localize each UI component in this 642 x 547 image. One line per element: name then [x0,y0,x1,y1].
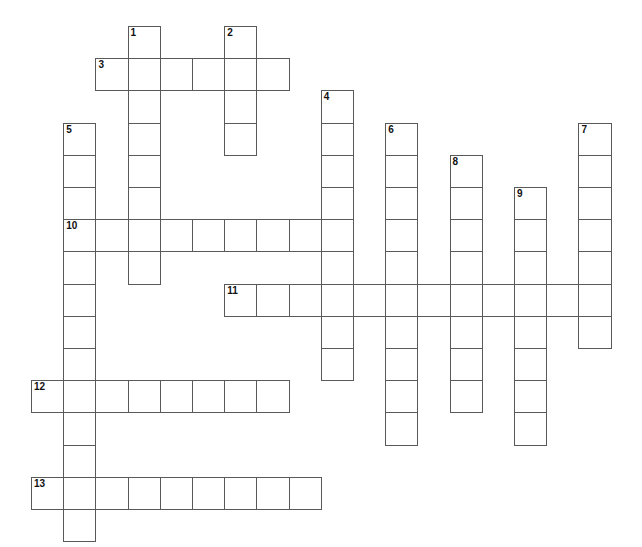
crossword-cell[interactable] [385,284,418,317]
crossword-cell-numbered[interactable]: 12 [31,380,64,413]
crossword-cell[interactable] [578,187,611,220]
crossword-cell[interactable] [482,284,515,317]
crossword-cell[interactable] [417,284,450,317]
crossword-cell-numbered[interactable]: 8 [450,155,483,188]
crossword-cell[interactable] [514,348,547,381]
crossword-cell-numbered[interactable]: 11 [224,284,257,317]
crossword-cell[interactable] [63,477,96,510]
crossword-cell[interactable] [160,380,193,413]
crossword-cell[interactable] [63,187,96,220]
crossword-cell[interactable] [321,123,354,156]
crossword-cell-numbered[interactable]: 13 [31,477,64,510]
crossword-cell-numbered[interactable]: 9 [514,187,547,220]
crossword-cell-numbered[interactable]: 2 [224,26,257,59]
crossword-cell[interactable] [192,219,225,252]
crossword-cell[interactable] [385,316,418,349]
crossword-cell[interactable] [450,284,483,317]
crossword-cell[interactable] [450,348,483,381]
crossword-cell[interactable] [289,477,322,510]
crossword-cell[interactable] [63,412,96,445]
crossword-cell[interactable] [224,58,257,91]
crossword-cell[interactable] [160,58,193,91]
crossword-cell-numbered[interactable]: 7 [578,123,611,156]
crossword-cell[interactable] [95,380,128,413]
crossword-cell[interactable] [63,284,96,317]
crossword-cell[interactable] [95,219,128,252]
crossword-cell[interactable] [128,155,161,188]
crossword-cell[interactable] [256,219,289,252]
crossword-cell[interactable] [224,123,257,156]
crossword-cell[interactable] [128,58,161,91]
crossword-cell[interactable] [63,251,96,284]
crossword-cell[interactable] [128,251,161,284]
crossword-cell[interactable] [256,380,289,413]
crossword-cell[interactable] [256,58,289,91]
crossword-cell[interactable] [578,219,611,252]
crossword-cell[interactable] [353,284,386,317]
crossword-cell[interactable] [321,219,354,252]
crossword-cell[interactable] [514,284,547,317]
crossword-cell[interactable] [95,477,128,510]
crossword-cell[interactable] [385,251,418,284]
crossword-grid[interactable]: 12345678910111213 [0,0,642,547]
crossword-cell[interactable] [192,380,225,413]
crossword-cell[interactable] [128,123,161,156]
crossword-cell[interactable] [160,219,193,252]
crossword-cell[interactable] [289,219,322,252]
crossword-cell[interactable] [128,380,161,413]
crossword-cell[interactable] [289,284,322,317]
crossword-cell[interactable] [450,380,483,413]
crossword-cell[interactable] [63,380,96,413]
crossword-cell[interactable] [385,348,418,381]
crossword-cell[interactable] [385,380,418,413]
crossword-cell[interactable] [385,187,418,220]
crossword-cell[interactable] [63,316,96,349]
crossword-cell[interactable] [224,477,257,510]
crossword-cell-numbered[interactable]: 5 [63,123,96,156]
crossword-cell[interactable] [321,316,354,349]
crossword-cell[interactable] [450,187,483,220]
crossword-cell[interactable] [160,477,193,510]
crossword-cell[interactable] [128,219,161,252]
crossword-cell[interactable] [450,251,483,284]
crossword-cell[interactable] [321,155,354,188]
crossword-cell[interactable] [224,380,257,413]
crossword-cell[interactable] [514,316,547,349]
crossword-cell[interactable] [128,187,161,220]
crossword-cell[interactable] [63,509,96,542]
crossword-cell[interactable] [450,219,483,252]
crossword-cell[interactable] [321,187,354,220]
crossword-cell[interactable] [578,155,611,188]
crossword-cell-numbered[interactable]: 10 [63,219,96,252]
crossword-cell[interactable] [385,219,418,252]
crossword-cell[interactable] [578,316,611,349]
crossword-cell[interactable] [63,155,96,188]
crossword-cell[interactable] [224,219,257,252]
crossword-cell[interactable] [192,58,225,91]
crossword-cell[interactable] [192,477,225,510]
crossword-cell[interactable] [63,445,96,478]
crossword-cell[interactable] [514,251,547,284]
crossword-cell[interactable] [385,412,418,445]
crossword-cell[interactable] [256,284,289,317]
crossword-cell[interactable] [128,477,161,510]
crossword-cell[interactable] [514,412,547,445]
crossword-cell-numbered[interactable]: 6 [385,123,418,156]
crossword-cell[interactable] [578,251,611,284]
crossword-cell[interactable] [321,284,354,317]
crossword-cell-numbered[interactable]: 4 [321,90,354,123]
crossword-cell[interactable] [256,477,289,510]
crossword-cell[interactable] [321,348,354,381]
crossword-cell-numbered[interactable]: 1 [128,26,161,59]
crossword-cell[interactable] [514,219,547,252]
crossword-cell[interactable] [578,284,611,317]
crossword-cell[interactable] [514,380,547,413]
crossword-cell[interactable] [385,155,418,188]
crossword-cell[interactable] [450,316,483,349]
crossword-cell[interactable] [128,90,161,123]
crossword-cell[interactable] [546,284,579,317]
crossword-cell-numbered[interactable]: 3 [95,58,128,91]
crossword-cell[interactable] [321,251,354,284]
crossword-cell[interactable] [63,348,96,381]
crossword-cell[interactable] [224,90,257,123]
